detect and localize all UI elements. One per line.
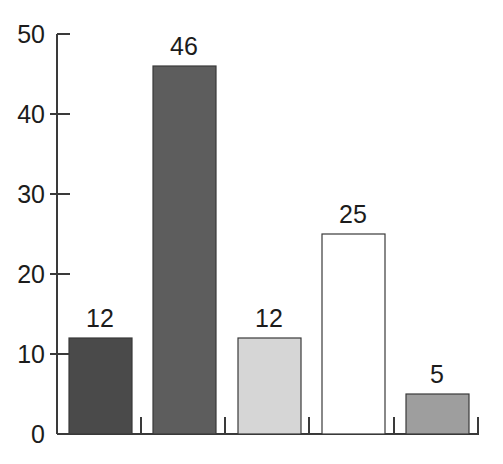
bar-3 bbox=[238, 338, 301, 434]
bar-4 bbox=[322, 234, 385, 434]
y-tick-label-0: 0 bbox=[31, 420, 45, 448]
y-tick-label-20: 20 bbox=[17, 260, 45, 288]
bar-5 bbox=[406, 394, 469, 434]
bar-chart-figure: 50 40 30 20 10 0 12 46 12 25 5 bbox=[0, 0, 503, 464]
bar-1 bbox=[69, 338, 132, 434]
y-tick-label-10: 10 bbox=[17, 340, 45, 368]
chart-canvas: 50 40 30 20 10 0 12 46 12 25 5 bbox=[0, 0, 503, 464]
bar-value-label-4: 25 bbox=[339, 200, 367, 228]
bar-2 bbox=[153, 66, 216, 434]
bar-value-label-2: 46 bbox=[170, 32, 198, 60]
bar-value-label-3: 12 bbox=[255, 304, 283, 332]
y-tick-label-50: 50 bbox=[17, 20, 45, 48]
y-tick-label-40: 40 bbox=[17, 100, 45, 128]
bar-value-label-5: 5 bbox=[430, 360, 444, 388]
y-tick-label-30: 30 bbox=[17, 180, 45, 208]
bar-value-label-1: 12 bbox=[86, 304, 114, 332]
